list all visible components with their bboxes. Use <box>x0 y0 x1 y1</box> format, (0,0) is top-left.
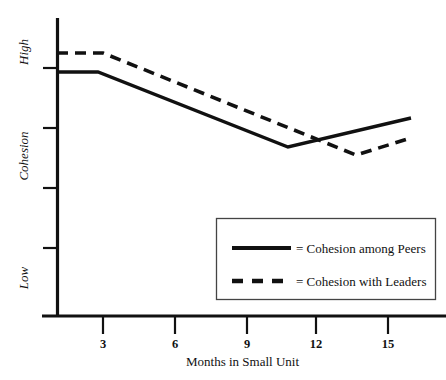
cohesion-line-chart: High Cohesion Low 3 6 9 12 15 Months in … <box>0 0 446 380</box>
x-tick-label-6: 6 <box>160 337 190 352</box>
y-axis-label-high: High <box>16 24 32 80</box>
x-tick-label-3: 3 <box>88 337 118 352</box>
series-line-cohesion-among-peers <box>57 72 411 147</box>
chart-canvas <box>0 0 446 380</box>
y-axis-label-low: Low <box>16 246 32 310</box>
y-axis-label-cohesion: Cohesion <box>16 118 32 194</box>
x-tick-label-12: 12 <box>301 337 331 352</box>
legend-label-cohesion-among-peers: = Cohesion among Peers <box>296 241 426 257</box>
x-tick-label-9: 9 <box>232 337 262 352</box>
series-line-cohesion-with-leaders <box>57 53 411 155</box>
x-axis-title: Months in Small Unit <box>186 354 299 370</box>
legend-label-cohesion-with-leaders: = Cohesion with Leaders <box>296 274 426 290</box>
x-tick-label-15: 15 <box>373 337 403 352</box>
